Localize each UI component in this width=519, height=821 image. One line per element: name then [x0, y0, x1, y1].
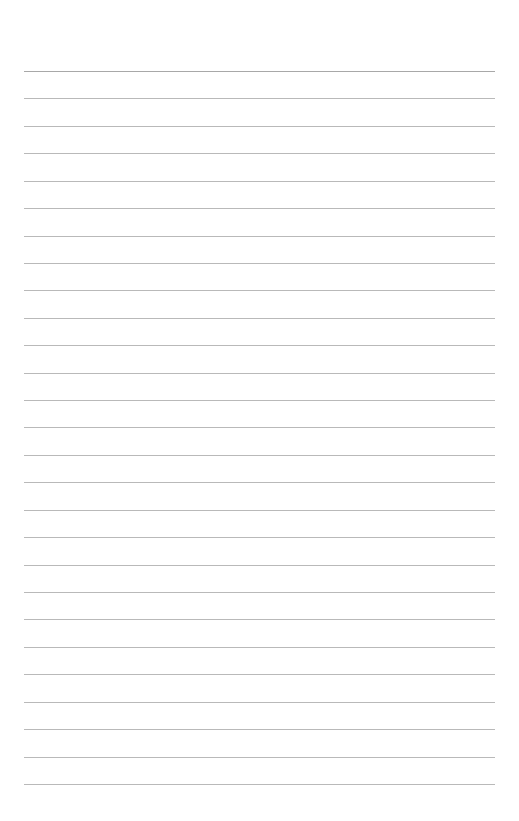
ruled-line [24, 181, 495, 182]
ruled-line [24, 455, 495, 456]
ruled-line [24, 482, 495, 483]
ruled-line [24, 400, 495, 401]
ruled-line [24, 126, 495, 127]
ruled-line [24, 290, 495, 291]
ruled-line [24, 619, 495, 620]
ruled-line [24, 263, 495, 264]
ruled-line [24, 427, 495, 428]
ruled-paper-page [0, 0, 519, 821]
ruled-line [24, 757, 495, 758]
ruled-line [24, 373, 495, 374]
ruled-line [24, 565, 495, 566]
ruled-line [24, 208, 495, 209]
ruled-line [24, 345, 495, 346]
ruled-line [24, 318, 495, 319]
ruled-line [24, 510, 495, 511]
ruled-line [24, 592, 495, 593]
ruled-line [24, 729, 495, 730]
ruled-line [24, 702, 495, 703]
ruled-line [24, 71, 495, 72]
ruled-line [24, 98, 495, 99]
ruled-line [24, 647, 495, 648]
ruled-line [24, 537, 495, 538]
ruled-line [24, 236, 495, 237]
ruled-line [24, 784, 495, 785]
ruled-line [24, 674, 495, 675]
ruled-line [24, 153, 495, 154]
